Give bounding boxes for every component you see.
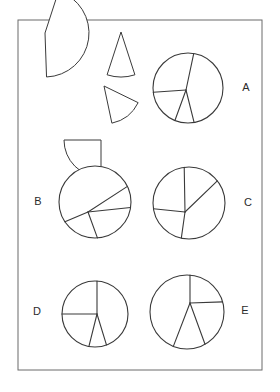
circle-c-outline (153, 167, 225, 239)
large-sector-piece (45, 0, 89, 77)
circle-b-outline (59, 166, 131, 238)
circle-label-e: E (241, 304, 248, 316)
circle-d (62, 281, 128, 347)
circle-b (59, 166, 131, 238)
circle-label-a: A (242, 81, 250, 93)
circle-a (153, 53, 223, 123)
medium-wedge-piece (104, 86, 138, 123)
circle-a-outline (153, 53, 223, 123)
loose-pieces-group (45, 0, 138, 177)
circle-label-b: B (34, 195, 41, 207)
circle-label-d: D (33, 305, 41, 317)
pie-pieces-figure: ABCDE (0, 0, 280, 392)
circle-e (150, 275, 224, 349)
narrow-wedge-piece (107, 32, 135, 77)
circles-group (59, 53, 225, 349)
figure-stage: ABCDE (0, 0, 280, 392)
circle-label-c: C (244, 196, 252, 208)
circle-c-cut-1 (184, 167, 185, 212)
circle-c (153, 167, 225, 239)
